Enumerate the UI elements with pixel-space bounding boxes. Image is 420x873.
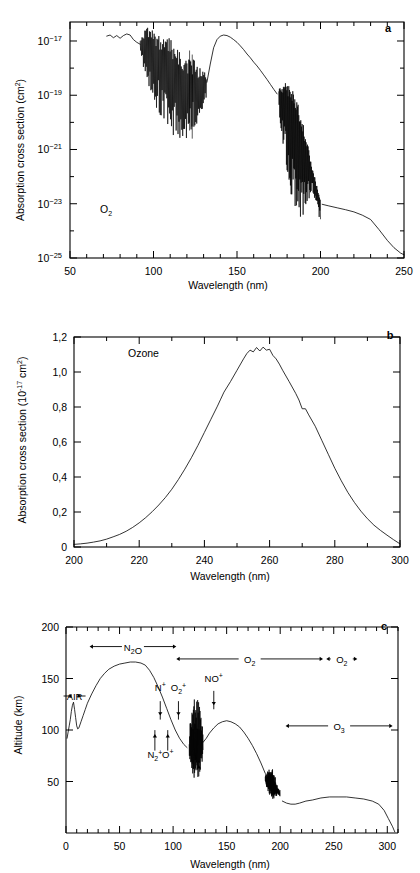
svg-text:0: 0 [61,541,67,553]
svg-text:50: 50 [47,776,59,788]
svg-text:240: 240 [196,554,214,566]
svg-text:10−21: 10−21 [38,142,62,155]
figure-container: Absorption cross section (cm2) 501001502… [0,0,420,873]
panel-b-y-axis-title: Absorption cross section (10-17 cm2) [16,357,28,524]
svg-text:250: 250 [325,840,343,852]
svg-text:10−23: 10−23 [38,197,62,210]
svg-text:280: 280 [326,554,344,566]
svg-text:200: 200 [271,840,289,852]
svg-text:150: 150 [228,265,246,277]
ion-annotation-oplus: O+ [162,748,173,760]
svg-text:10−19: 10−19 [38,88,62,101]
panel-a-y-axis-title: Absorption cross section (cm2) [14,79,26,221]
svg-text:1,0: 1,0 [52,366,67,378]
svg-text:0,4: 0,4 [52,471,67,483]
svg-text:250: 250 [395,265,413,277]
ion-annotation-n2plus: N2+ [147,749,162,762]
panel-label-a: a [385,22,392,34]
range-annotation-o3: O3 [333,721,344,734]
svg-text:200: 200 [312,265,330,277]
range-annotation-o2: O2 [244,654,255,667]
panel-a-x-axis-title: Wavelength (nm) [188,279,268,291]
svg-text:0,2: 0,2 [52,506,67,518]
svg-text:150: 150 [218,840,236,852]
panel-a-o2-cross-section: Absorption cross section (cm2) 501001502… [0,0,420,295]
panel-a-frame [70,22,404,258]
svg-text:150: 150 [41,673,59,685]
svg-text:50: 50 [64,265,76,277]
panel-a-svg: Absorption cross section (cm2) 501001502… [0,0,420,295]
range-annotation-o2: O2 [336,654,347,667]
panel-b-x-axis-title: Wavelength (nm) [190,570,270,582]
svg-text:100: 100 [164,840,182,852]
svg-text:100: 100 [41,724,59,736]
svg-text:300: 300 [391,554,409,566]
panel-a-species-label: O2 [100,203,112,217]
panel-b-species-label: Ozone [128,347,159,359]
svg-text:200: 200 [65,554,83,566]
svg-text:100: 100 [145,265,163,277]
svg-text:Absorption cross section (cm2): Absorption cross section (cm2) [14,79,26,221]
panel-c-svg: Altitude (km) 05010015020025030050100150… [0,585,420,873]
panel-b-ozone-cross-section: Absorption cross section (10-17 cm2) 200… [0,295,420,585]
svg-text:260: 260 [261,554,279,566]
svg-text:0,8: 0,8 [52,401,67,413]
svg-text:50: 50 [114,840,126,852]
svg-text:220: 220 [130,554,148,566]
panel-b-frame [74,337,400,547]
panel-c-penetration-altitude: Altitude (km) 05010015020025030050100150… [0,585,420,873]
ion-annotation-o2plus: O2+ [171,682,186,695]
range-annotation-air: AIR [67,691,83,702]
svg-text:300: 300 [379,840,397,852]
svg-text:1,2: 1,2 [52,331,67,343]
ion-annotation-nplus: N+ [155,681,166,693]
range-annotation-n2o: N2O [124,642,142,656]
panel-label-c: c [381,620,387,632]
svg-text:Absorption cross section (10-1: Absorption cross section (10-17 cm2) [16,357,28,524]
panel-c-x-axis-title: Wavelength (nm) [190,858,270,870]
panel-b-svg: Absorption cross section (10-17 cm2) 200… [0,295,420,585]
ion-annotation-noplus: NO+ [205,672,223,684]
svg-text:10−17: 10−17 [38,34,62,47]
svg-text:0,6: 0,6 [52,436,67,448]
svg-text:200: 200 [41,621,59,633]
svg-text:10−25: 10−25 [38,251,62,264]
svg-text:0: 0 [63,840,69,852]
panel-label-b: b [387,329,394,341]
panel-c-y-axis-title: Altitude (km) [12,696,24,755]
